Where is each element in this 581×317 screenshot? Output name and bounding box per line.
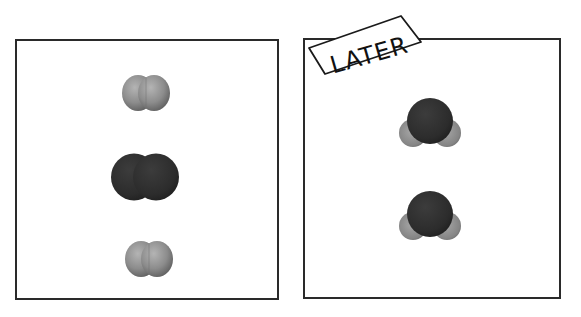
molecule-diatomic-top (121, 74, 171, 112)
later-label: LATER (305, 12, 427, 84)
molecule-diatomic-bottom (124, 240, 174, 278)
molecule-diatomic-middle (110, 153, 180, 201)
molecule-bent-top (399, 97, 461, 151)
molecule-bent-bottom (399, 190, 461, 244)
